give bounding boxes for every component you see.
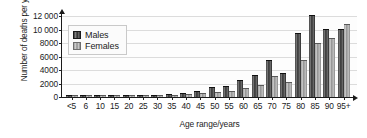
x-tick-mark: [329, 97, 330, 100]
bar-group: [337, 16, 351, 97]
x-tick-mark: [172, 97, 173, 100]
bar-group: [151, 16, 165, 97]
x-tick-label: 40: [182, 101, 191, 111]
x-tick-label: 10: [96, 101, 105, 111]
bar-group: [137, 16, 151, 97]
bar-females: [272, 76, 278, 97]
x-tick-mark: [229, 97, 230, 100]
bar-group: [165, 16, 179, 97]
x-tick-mark: [286, 97, 287, 100]
y-tick-label: 0: [20, 92, 58, 102]
x-tick-mark: [129, 97, 130, 100]
legend-swatch-males-icon: [73, 31, 81, 39]
x-tick-mark: [72, 97, 73, 100]
y-axis-arrow-icon: [59, 9, 65, 14]
x-tick-label: 80: [296, 101, 305, 111]
x-tick-label: 55: [225, 101, 234, 111]
x-tick-label: 50: [210, 101, 219, 111]
x-tick-label: 90: [325, 101, 334, 111]
y-tick-label: 4000: [20, 65, 58, 75]
legend-label-females: Females: [85, 41, 119, 51]
x-tick-label: <5: [67, 101, 76, 111]
legend-item-females: Females: [73, 40, 119, 51]
legend-swatch-females-icon: [73, 42, 81, 50]
x-axis-tick-labels: <56101520253035404550556065707580859095+: [62, 97, 357, 119]
x-tick-label: 30: [153, 101, 162, 111]
bar-group: [308, 16, 322, 97]
bar-group: [237, 16, 251, 97]
bar-group: [251, 16, 265, 97]
x-tick-label: 65: [253, 101, 262, 111]
bar-group: [265, 16, 279, 97]
bar-females: [315, 43, 321, 97]
x-tick-label: 25: [139, 101, 148, 111]
x-tick-mark: [186, 97, 187, 100]
x-tick-mark: [143, 97, 144, 100]
x-tick-mark: [344, 97, 345, 100]
bar-group: [280, 16, 294, 97]
x-tick-mark: [86, 97, 87, 100]
x-tick-mark: [243, 97, 244, 100]
x-tick-label: 45: [196, 101, 205, 111]
bar-group: [180, 16, 194, 97]
x-tick-mark: [157, 97, 158, 100]
bar-females: [258, 85, 264, 97]
chart-legend: Males Females: [68, 25, 127, 55]
x-tick-label: 85: [310, 101, 319, 111]
x-tick-label: 70: [268, 101, 277, 111]
x-tick-mark: [315, 97, 316, 100]
x-tick-mark: [100, 97, 101, 100]
bar-group: [294, 16, 308, 97]
x-tick-mark: [272, 97, 273, 100]
y-tick-label: 6000: [20, 52, 58, 62]
bar-females: [286, 82, 292, 98]
x-tick-mark: [301, 97, 302, 100]
x-tick-label: 6: [84, 101, 88, 111]
bar-females: [301, 60, 307, 97]
bar-females: [329, 38, 335, 97]
bar-group: [323, 16, 337, 97]
x-tick-label: 20: [124, 101, 133, 111]
x-tick-mark: [258, 97, 259, 100]
x-axis-title: Age range/years: [62, 119, 357, 129]
x-tick-mark: [215, 97, 216, 100]
y-axis-tick-labels: 0200040006000800010 00012 000: [20, 0, 58, 138]
bar-females: [243, 88, 249, 97]
x-tick-mark: [114, 97, 115, 100]
bar-group: [194, 16, 208, 97]
y-tick-label: 8000: [20, 38, 58, 48]
legend-label-males: Males: [85, 30, 109, 40]
deaths-by-age-bar-chart: Number of deaths per year 02000400060008…: [0, 0, 367, 138]
y-tick-label: 12 000: [20, 11, 58, 21]
x-tick-label: 60: [239, 101, 248, 111]
x-tick-label: 95+: [337, 101, 351, 111]
x-tick-label: 75: [282, 101, 291, 111]
x-tick-label: 35: [167, 101, 176, 111]
bar-group: [208, 16, 222, 97]
legend-item-males: Males: [73, 29, 119, 40]
y-tick-label: 2000: [20, 79, 58, 89]
x-tick-mark: [200, 97, 201, 100]
x-tick-label: 15: [110, 101, 119, 111]
bar-group: [223, 16, 237, 97]
y-tick-label: 10 000: [20, 25, 58, 35]
bar-females: [344, 24, 350, 97]
